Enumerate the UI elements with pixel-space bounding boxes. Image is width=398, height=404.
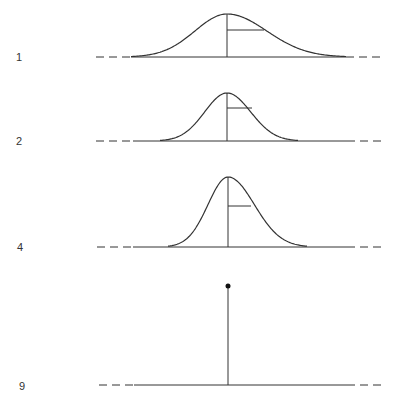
panel-label-4: 4 xyxy=(17,241,23,253)
distribution-curves xyxy=(0,0,398,404)
panel-label-9: 9 xyxy=(19,380,25,392)
panel-label-1: 1 xyxy=(16,51,22,63)
spike-point xyxy=(226,284,231,289)
panel-label-2: 2 xyxy=(16,135,22,147)
distribution-curve xyxy=(168,177,307,246)
distribution-curve xyxy=(160,93,298,140)
distribution-curve xyxy=(131,14,346,57)
